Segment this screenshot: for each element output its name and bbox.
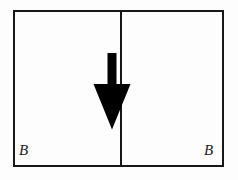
- panel-left[interactable]: [15, 12, 120, 165]
- figure-root: B B: [0, 0, 238, 180]
- corner-label-bottom-left: B: [19, 143, 28, 158]
- corner-label-bottom-right: B: [204, 143, 213, 158]
